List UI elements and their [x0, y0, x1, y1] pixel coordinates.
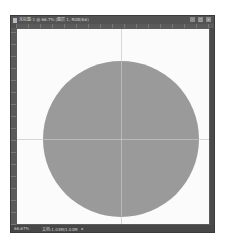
window-controls: – □ ×: [190, 17, 211, 22]
minimize-button[interactable]: –: [190, 17, 195, 22]
document-window: 未标题-1 @ 66.7% (图层 1, RGB/8#) – □ × 66.67…: [10, 15, 215, 233]
title-bar[interactable]: 未标题-1 @ 66.7% (图层 1, RGB/8#) – □ ×: [11, 16, 214, 24]
horizontal-guide[interactable]: [17, 139, 209, 140]
status-bar: 66.67% 文档:1.03M/1.03M ▸: [11, 225, 214, 232]
canvas-area[interactable]: [16, 28, 210, 225]
status-menu-arrow-icon[interactable]: ▸: [81, 226, 83, 231]
document-title: 未标题-1 @ 66.7% (图层 1, RGB/8#): [19, 16, 89, 24]
document-icon: [13, 18, 17, 23]
vertical-scrollbar[interactable]: [210, 28, 214, 225]
close-button[interactable]: ×: [206, 17, 211, 22]
vertical-guide[interactable]: [121, 29, 122, 224]
canvas[interactable]: [17, 29, 209, 224]
zoom-level[interactable]: 66.67%: [14, 226, 36, 231]
document-info: 文档:1.03M/1.03M: [42, 226, 77, 232]
maximize-button[interactable]: □: [198, 17, 203, 22]
